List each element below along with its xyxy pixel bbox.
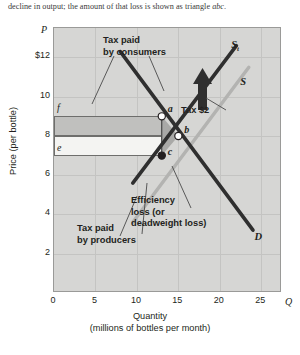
x-axis-tick-label: 0 bbox=[38, 295, 68, 305]
price-marker-e-label: e bbox=[57, 142, 61, 153]
x-axis-tick-label: 10 bbox=[121, 295, 151, 305]
point-a bbox=[158, 113, 165, 120]
curves-layer bbox=[54, 28, 281, 292]
y-axis-tick-label: 2 bbox=[0, 247, 50, 257]
point-c-label: c bbox=[168, 146, 172, 157]
supply-with-tax-curve-label: St bbox=[231, 39, 239, 53]
point-b-label: b bbox=[184, 124, 189, 135]
point-a-label: a bbox=[168, 103, 173, 114]
x-axis-title: Quantity (millions of bottles per month) bbox=[0, 310, 300, 334]
supply-curve-label: S bbox=[240, 76, 246, 87]
supply-demand-tax-chart: P Q $12108642 0510152025 Price (per bott… bbox=[0, 18, 300, 355]
plot-area bbox=[53, 27, 281, 292]
x-axis-title-sub: (millions of bottles per month) bbox=[0, 322, 300, 334]
x-axis-tick-label: 20 bbox=[204, 295, 234, 305]
y-axis-title: Price (per bottle) bbox=[8, 81, 18, 201]
y-axis-tick-label: 4 bbox=[0, 207, 50, 217]
annotation-efficiency-loss: Efficiency loss (or deadweight loss) bbox=[131, 195, 206, 230]
x-axis-title-main: Quantity bbox=[0, 310, 300, 322]
x-axis-tick-label: 15 bbox=[162, 295, 192, 305]
point-b bbox=[175, 132, 182, 139]
price-marker-f-label: f bbox=[57, 102, 60, 113]
x-axis-tick-label: 5 bbox=[79, 295, 109, 305]
figure-caption: decline in output; the amount of that lo… bbox=[8, 1, 296, 12]
caption-italic-term: abc bbox=[212, 2, 224, 11]
x-axis-symbol: Q bbox=[285, 296, 292, 307]
y-axis-tick-label: $12 bbox=[0, 50, 50, 60]
tax-amount-arrow-icon bbox=[193, 68, 212, 110]
caption-text-after: . bbox=[224, 2, 226, 11]
point-c bbox=[158, 152, 165, 159]
annotation-tax-paid-by-producers: Tax paid by producers bbox=[77, 223, 136, 246]
annotation-tax-amount: Tax $2 bbox=[181, 105, 209, 117]
caption-text-before: decline in output; the amount of that lo… bbox=[8, 2, 212, 11]
demand-curve-label: D bbox=[254, 231, 262, 242]
x-axis-tick-label: 25 bbox=[245, 295, 275, 305]
annotation-tax-paid-by-consumers: Tax paid by consumers bbox=[103, 35, 166, 58]
